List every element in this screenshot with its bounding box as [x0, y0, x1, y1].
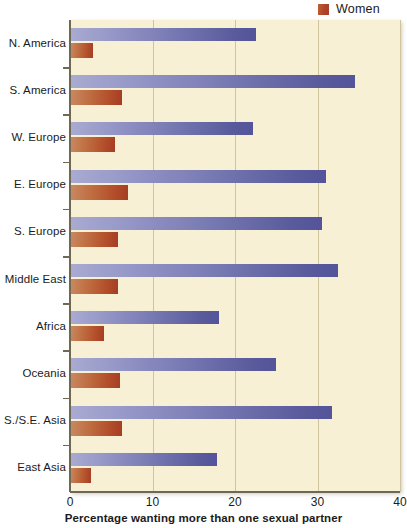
category-label-africa: Africa — [2, 321, 66, 333]
x-axis-tick-label-20: 20 — [228, 496, 241, 508]
plot-inner — [70, 20, 400, 492]
bar-men — [70, 358, 276, 371]
category-label-oceania: Oceania — [2, 368, 66, 380]
gridline-30 — [318, 20, 319, 492]
chart-figure: Women N. AmericaS. AmericaW. EuropeE. Eu… — [0, 0, 407, 528]
category-label-n-america: N. America — [2, 38, 66, 50]
category-label-s-s-e-asia: S./S.E. Asia — [2, 415, 66, 427]
category-label-middle-east: Middle East — [2, 274, 66, 286]
bar-men — [70, 122, 253, 135]
bar-women — [70, 185, 128, 200]
chart-legend: Women — [318, 1, 380, 17]
legend-label-women: Women — [336, 3, 380, 16]
bar-women — [70, 326, 104, 341]
x-axis-line — [70, 491, 400, 493]
bar-women — [70, 137, 115, 152]
y-axis-tick — [63, 303, 70, 305]
gridline-10 — [153, 20, 154, 492]
x-axis-tick-label-40: 40 — [393, 496, 406, 508]
category-label-s-europe: S. Europe — [2, 226, 66, 238]
y-axis-tick — [63, 67, 70, 69]
bar-women — [70, 421, 122, 436]
y-axis-tick — [63, 398, 70, 400]
plot-area — [70, 20, 400, 492]
bar-men — [70, 75, 355, 88]
x-axis-tick-label-30: 30 — [311, 496, 324, 508]
y-axis-tick — [63, 256, 70, 258]
category-label-east-asia: East Asia — [2, 462, 66, 474]
bar-men — [70, 170, 326, 183]
y-axis-tick — [63, 445, 70, 447]
gridline-40 — [400, 20, 401, 492]
bar-women — [70, 373, 120, 388]
bar-men — [70, 217, 322, 230]
y-axis-tick — [63, 114, 70, 116]
category-label-s-america: S. America — [2, 85, 66, 97]
x-axis-tick-label-10: 10 — [146, 496, 159, 508]
bar-men — [70, 453, 217, 466]
gridline-20 — [235, 20, 236, 492]
bar-women — [70, 90, 122, 105]
bar-men — [70, 311, 219, 324]
bar-women — [70, 279, 118, 294]
bar-men — [70, 28, 256, 41]
bar-women — [70, 232, 118, 247]
x-axis-title: Percentage wanting more than one sexual … — [0, 512, 407, 524]
category-label-e-europe: E. Europe — [2, 179, 66, 191]
x-axis-tick-label-0: 0 — [67, 496, 74, 508]
legend-square-icon — [318, 4, 329, 15]
bar-men — [70, 406, 332, 419]
category-label-w-europe: W. Europe — [2, 132, 66, 144]
y-axis-tick — [63, 209, 70, 211]
y-axis-tick — [63, 350, 70, 352]
bar-men — [70, 264, 338, 277]
bar-women — [70, 468, 91, 483]
category-axis-labels: N. AmericaS. AmericaW. EuropeE. EuropeS.… — [0, 20, 66, 492]
bar-women — [70, 43, 93, 58]
y-axis-tick — [63, 162, 70, 164]
